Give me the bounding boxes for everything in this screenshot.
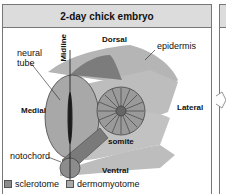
sclerotome-swatch [4,180,12,188]
somite-label: somite [108,138,134,146]
epidermis-label: epidermis [157,42,196,51]
dorsal-label: Dorsal [102,36,127,44]
lateral-label: Lateral [177,104,203,112]
legend: sclerotome dermomyotome [4,179,140,189]
ventral-label: Ventral [102,167,129,175]
medial-label: Medial [21,107,46,115]
notochord-label: notochord [10,152,50,161]
dermomyotome-swatch [66,180,74,188]
legend-dermomyotome: dermomyotome [77,179,140,189]
midline-label: Midline [60,34,68,62]
neural-tube-label-1: neural [17,49,42,58]
legend-sclerotome: sclerotome [15,179,59,189]
embryo-illustration [0,0,226,194]
neural-tube-label-2: tube [17,59,35,68]
